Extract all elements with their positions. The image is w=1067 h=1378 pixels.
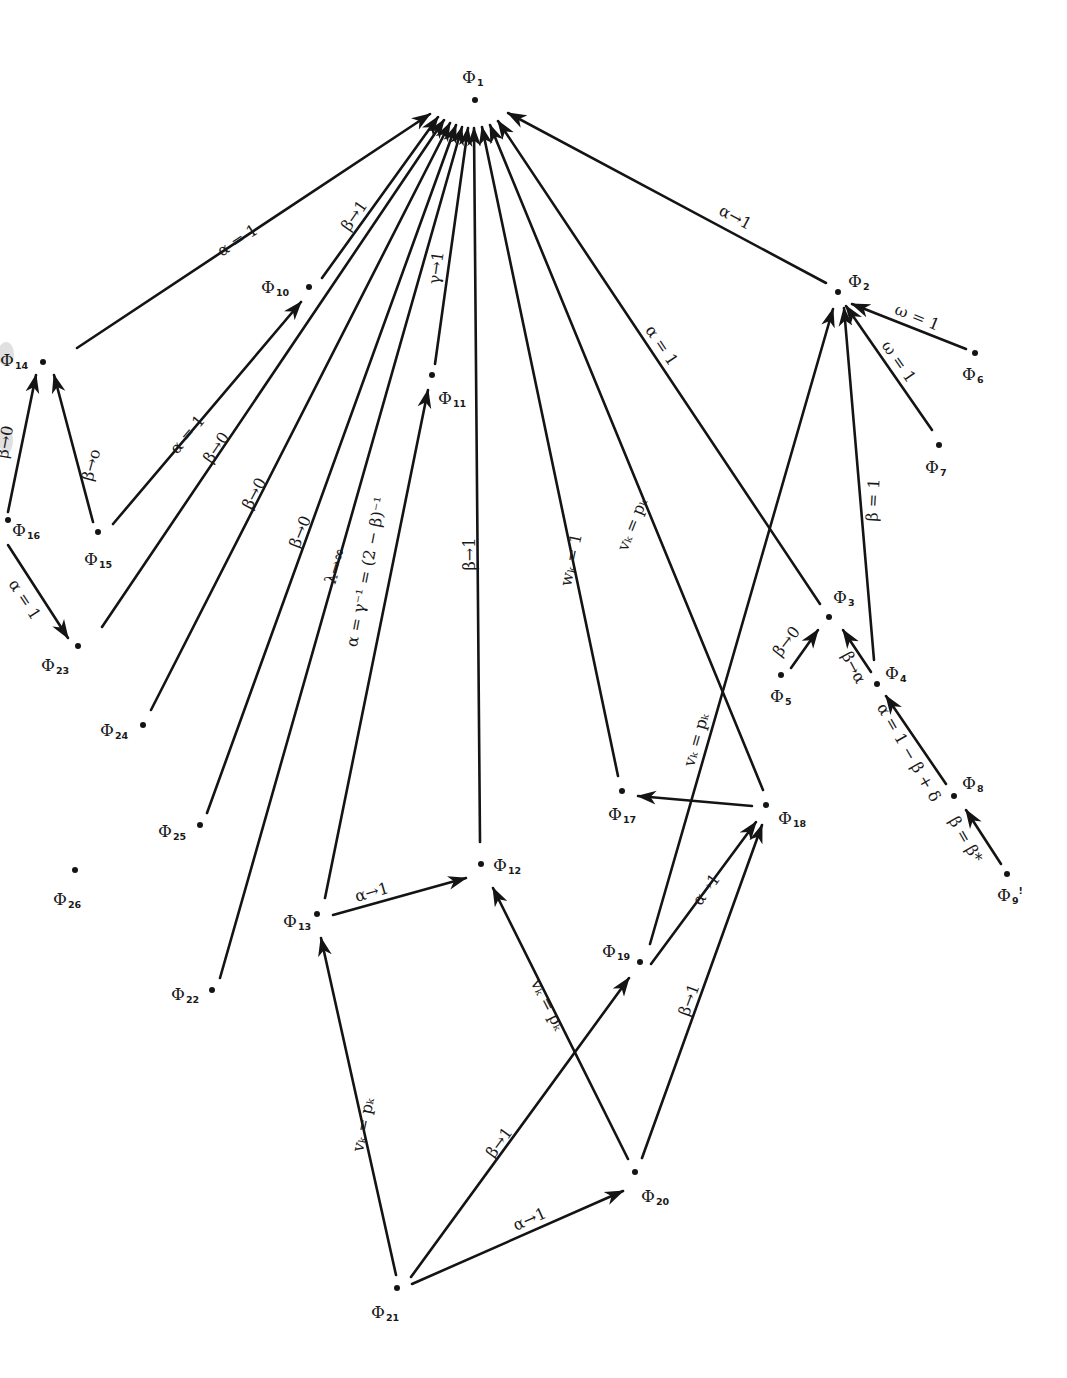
node-dot xyxy=(478,861,484,867)
node-dot xyxy=(72,867,78,873)
node-subscript: 19 xyxy=(617,951,630,962)
node-symbol: Φ xyxy=(100,720,114,740)
node-symbol: Φ xyxy=(833,587,847,607)
node-phi19: Φ19 xyxy=(602,941,643,966)
node-suffix: ! xyxy=(1019,885,1023,896)
node-subscript: 6 xyxy=(977,374,984,385)
node-phi21: Φ21 xyxy=(371,1285,400,1323)
node-phi25: Φ25 xyxy=(158,821,203,842)
node-symbol: Φ xyxy=(53,889,67,909)
node-phi4: Φ4 xyxy=(874,663,907,688)
node-label: Φ6 xyxy=(962,364,984,385)
node-symbol: Φ xyxy=(438,388,452,408)
node-dot xyxy=(763,802,769,808)
node-phi8: Φ8 xyxy=(951,773,984,800)
node-dot xyxy=(826,614,832,620)
node-symbol: Φ xyxy=(925,457,939,477)
node-phi1: Φ1 xyxy=(462,67,484,104)
edge-label: β→α xyxy=(838,648,871,687)
node-phi9: Φ9! xyxy=(997,871,1023,906)
node-phi6: Φ6 xyxy=(962,350,984,385)
node-label: Φ15 xyxy=(84,549,112,570)
edge-phi2-to-phi1 xyxy=(508,113,826,283)
node-label: Φ12 xyxy=(493,855,521,876)
node-phi12: Φ12 xyxy=(478,855,521,876)
node-label: Φ25 xyxy=(158,821,186,842)
node-subscript: 17 xyxy=(623,814,636,825)
edge-label: vₖ = pₖ xyxy=(348,1095,378,1154)
node-symbol: Φ xyxy=(462,67,476,87)
node-symbol: Φ xyxy=(602,941,616,961)
node-symbol: Φ xyxy=(493,855,507,875)
edge-phi21-to-phi20 xyxy=(412,1191,623,1284)
edge-label: α = 1 xyxy=(5,576,45,624)
edge-label: β→1 xyxy=(482,1124,517,1162)
node-subscript: 2 xyxy=(863,281,870,292)
node-dot xyxy=(972,350,978,356)
edge-label: α = 1 xyxy=(214,220,262,260)
node-label: Φ3 xyxy=(833,587,855,608)
node-label: Φ11 xyxy=(438,388,466,409)
edge-label: β→0 xyxy=(769,623,804,661)
node-dot xyxy=(874,681,880,687)
node-subscript: 22 xyxy=(186,994,199,1005)
edge-label: β→0 xyxy=(285,513,315,551)
node-label: Φ23 xyxy=(41,655,69,676)
node-subscript: 10 xyxy=(276,287,290,298)
node-label: Φ1 xyxy=(462,67,484,88)
node-dot xyxy=(40,359,46,365)
node-label: Φ2 xyxy=(848,271,870,292)
node-label: Φ9! xyxy=(997,885,1023,906)
node-dot xyxy=(209,987,215,993)
node-label: Φ10 xyxy=(261,277,290,298)
node-phi5: Φ5 xyxy=(770,672,792,707)
node-label: Φ8 xyxy=(962,773,984,794)
edge-label: β = 1 xyxy=(862,478,883,522)
node-subscript: 16 xyxy=(27,530,41,541)
edge-label: λ→∞ xyxy=(321,545,350,586)
node-symbol: Φ xyxy=(778,808,792,828)
edge-label: γ→1 xyxy=(424,250,447,285)
node-symbol: Φ xyxy=(283,911,297,931)
node-phi3: Φ3 xyxy=(826,587,855,621)
model-relationship-diagram: α = 1β→1α = 1β→0β→0β→0λ→∞γ→1α = γ⁻¹ = (2… xyxy=(0,0,1067,1378)
node-symbol: Φ xyxy=(608,804,622,824)
edge-phi18-to-phi17 xyxy=(638,796,752,806)
node-subscript: 12 xyxy=(508,865,521,876)
node-label: Φ20 xyxy=(641,1186,670,1207)
node-subscript: 9 xyxy=(1012,895,1019,906)
node-label: Φ13 xyxy=(283,911,311,932)
node-dot xyxy=(394,1285,400,1291)
node-subscript: 5 xyxy=(785,696,792,707)
edge-label: β→0 xyxy=(199,429,233,467)
node-symbol: Φ xyxy=(885,663,899,683)
node-label: Φ18 xyxy=(778,808,807,829)
node-subscript: 13 xyxy=(298,921,311,932)
node-subscript: 8 xyxy=(977,783,984,794)
node-symbol: Φ xyxy=(0,350,14,370)
node-subscript: 3 xyxy=(848,597,855,608)
node-dot xyxy=(197,822,203,828)
node-symbol: Φ xyxy=(962,773,976,793)
node-subscript: 15 xyxy=(99,559,112,570)
node-subscript: 14 xyxy=(15,360,29,371)
node-subscript: 21 xyxy=(386,1312,399,1323)
node-symbol: Φ xyxy=(848,271,862,291)
node-label: Φ21 xyxy=(371,1302,399,1323)
edge-label: β→1 xyxy=(460,538,479,571)
node-symbol: Φ xyxy=(12,520,26,540)
node-phi23: Φ23 xyxy=(41,643,81,676)
node-phi22: Φ22 xyxy=(171,984,215,1005)
edge-label: β→o xyxy=(78,447,105,483)
edge-label: vₖ = pₖ xyxy=(527,975,570,1034)
node-subscript: 23 xyxy=(56,665,69,676)
node-symbol: Φ xyxy=(770,686,784,706)
node-phi18: Φ18 xyxy=(763,802,807,829)
node-phi15: Φ15 xyxy=(84,529,112,570)
node-symbol: Φ xyxy=(171,984,185,1004)
node-label: Φ19 xyxy=(602,941,630,962)
node-phi17: Φ17 xyxy=(608,788,636,825)
node-subscript: 24 xyxy=(115,730,129,741)
node-subscript: 25 xyxy=(173,831,186,842)
edge-label: α→1 xyxy=(510,1203,549,1234)
